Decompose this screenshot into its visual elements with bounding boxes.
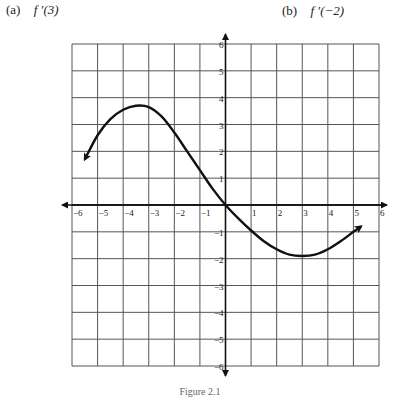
x-tick-label: −5	[99, 208, 109, 218]
y-tick-label: −2	[214, 255, 224, 265]
y-tick-label: −6	[214, 362, 224, 372]
x-tick-label: −1	[201, 208, 211, 218]
x-tick-label: 3	[303, 208, 308, 218]
y-tick-label: −1	[214, 228, 224, 238]
y-tick-label: −3	[214, 282, 224, 292]
x-tick-label: −3	[150, 208, 160, 218]
y-tick-label: −5	[214, 335, 224, 345]
y-tick-label: 3	[219, 121, 224, 131]
y-tick-label: 5	[219, 67, 224, 77]
tick-labels: −6−5−4−3−2−1123456654321−1−2−3−4−5−6	[73, 40, 385, 372]
x-tick-label: 4	[329, 208, 334, 218]
x-tick-label: 5	[354, 208, 359, 218]
x-tick-label: −2	[175, 208, 185, 218]
y-tick-label: 2	[219, 147, 224, 157]
y-tick-label: 4	[219, 94, 224, 104]
y-tick-label: 6	[219, 40, 224, 50]
y-tick-label: 1	[219, 174, 224, 184]
x-tick-label: 6	[380, 208, 385, 218]
x-tick-label: 2	[278, 208, 283, 218]
figure-caption: Figure 2.1	[179, 386, 220, 397]
x-tick-label: −6	[73, 208, 83, 218]
y-tick-label: −4	[214, 308, 224, 318]
x-tick-label: −4	[124, 208, 134, 218]
x-tick-label: 1	[252, 208, 256, 218]
